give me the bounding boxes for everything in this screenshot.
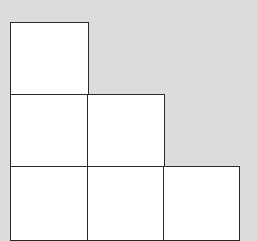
cell-r3-c3 xyxy=(163,166,240,241)
cell-r1-c1 xyxy=(10,22,89,96)
cell-r2-c1 xyxy=(10,94,89,168)
staircase-diagram xyxy=(0,0,257,241)
cell-r3-c2 xyxy=(87,166,165,241)
cell-r3-c1 xyxy=(10,166,89,241)
cell-r2-c2 xyxy=(87,94,165,168)
